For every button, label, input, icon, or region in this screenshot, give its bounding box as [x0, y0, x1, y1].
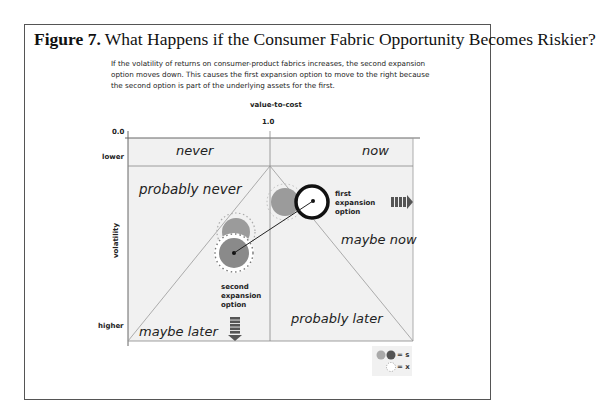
region-probably-later: probably later — [291, 311, 382, 326]
legend-dotted-circle-icon — [387, 363, 396, 372]
legend-x-label: = x — [397, 363, 410, 371]
legend-s-label: = s — [397, 351, 409, 359]
first-option-label: first expansion option — [335, 190, 375, 217]
legend-dark-circle-icon — [387, 351, 396, 360]
region-probably-never: probably never — [139, 181, 242, 197]
region-maybe-now: maybe now — [341, 232, 417, 247]
region-maybe-later: maybe later — [139, 324, 218, 339]
region-never: never — [176, 143, 213, 158]
second-option-label: second expansion option — [221, 283, 261, 310]
legend-light-circle-icon — [377, 351, 386, 360]
region-now: now — [362, 143, 389, 158]
